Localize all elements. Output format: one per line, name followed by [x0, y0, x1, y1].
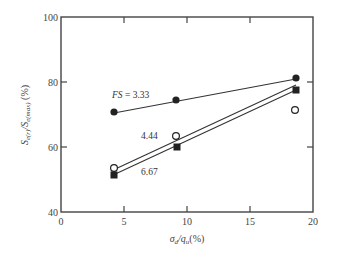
y-tick-label-40: 40: [48, 207, 58, 218]
y-tick-label-60: 60: [48, 142, 58, 153]
point-filled-circle: [172, 96, 179, 103]
chart: 0 5 10 15 20 40 60 80 100 σd/qu(%) Se(r)…: [0, 0, 337, 255]
y-tick-label-80: 80: [48, 77, 58, 88]
point-filled-square: [174, 144, 181, 151]
label-fs-3-33: FS = 3.33: [111, 90, 150, 100]
y-ticks: [61, 82, 313, 147]
series-fs-4-44: [111, 107, 299, 172]
label-fs-4-44: 4.44: [141, 131, 158, 141]
x-tick-label-5: 5: [122, 216, 127, 227]
point-open-circle: [173, 133, 180, 140]
point-filled-circle: [292, 74, 299, 81]
y-axis-title: Se(r)/Se(max) (%): [19, 85, 32, 145]
x-ticks: [124, 17, 250, 212]
x-tick-label-0: 0: [59, 216, 64, 227]
x-axis-title: σd/qu(%): [170, 233, 205, 246]
plot-frame: [61, 17, 313, 212]
fit-line-fs-6-67: [111, 90, 296, 176]
y-tick-label-100: 100: [43, 12, 58, 23]
point-filled-square: [293, 87, 300, 94]
point-open-circle: [292, 107, 299, 114]
x-tick-label-20: 20: [308, 216, 318, 227]
point-filled-circle: [110, 108, 117, 115]
x-tick-label-10: 10: [182, 216, 192, 227]
point-open-circle: [111, 165, 118, 172]
point-filled-square: [111, 172, 118, 179]
x-tick-label-15: 15: [245, 216, 255, 227]
label-fs-6-67: 6.67: [141, 167, 158, 177]
